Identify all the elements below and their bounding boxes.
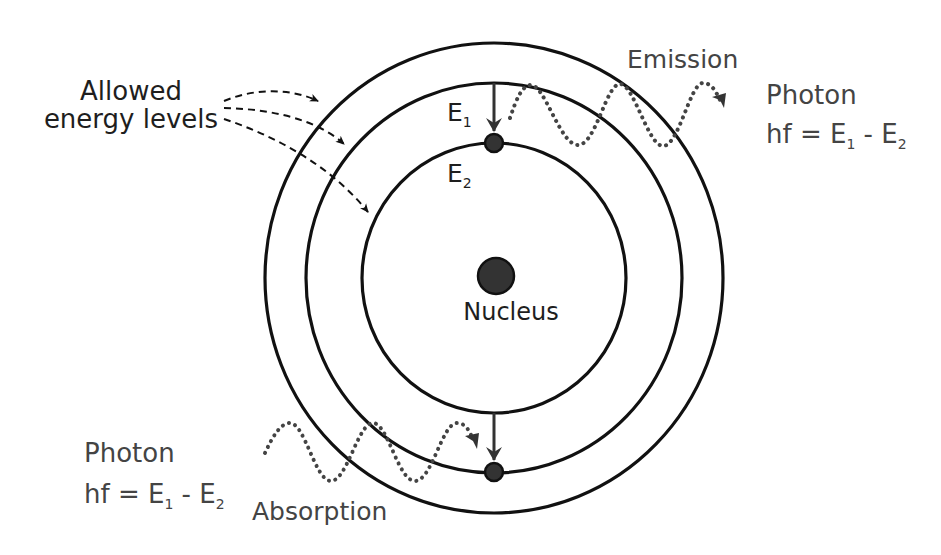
allowed-arrow-outer: [224, 91, 318, 101]
emission-photon-wave: [510, 83, 720, 146]
emission-photon-title: Photon: [766, 80, 857, 110]
absorption-photon-formula: hf = E1 - E2: [84, 479, 225, 512]
electron-top-icon: [485, 134, 503, 152]
absorption-photon-wave: [265, 423, 473, 481]
allowed-levels-label-line1: Allowed: [80, 76, 182, 106]
absorption-label: Absorption: [252, 497, 387, 526]
absorption-arrowhead-icon: [465, 433, 479, 449]
electron-bottom-icon: [485, 463, 503, 481]
allowed-arrow-inner: [224, 119, 368, 212]
nucleus-label: Nucleus: [463, 298, 559, 326]
nucleus-icon: [478, 258, 514, 294]
absorption-photon-title: Photon: [84, 438, 175, 468]
allowed-levels-label-line2: energy levels: [44, 104, 218, 134]
e1-label: E1: [447, 98, 472, 130]
emission-label: Emission: [627, 45, 738, 74]
bohr-diagram: Nucleus E1 E2 Allowed energy levels Emis…: [0, 0, 941, 555]
emission-photon-formula: hf = E1 - E2: [766, 119, 907, 152]
e2-label: E2: [447, 159, 472, 191]
allowed-arrow-middle: [224, 108, 344, 144]
